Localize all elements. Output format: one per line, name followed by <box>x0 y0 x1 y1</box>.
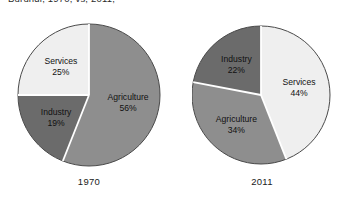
pie-chart-2011: Services44%Agriculture34%Industry22% 201… <box>192 22 332 187</box>
pie-chart-1970: Agriculture56%Industry19%Services25% 197… <box>14 22 164 187</box>
pie-label-percent: 25% <box>52 67 70 77</box>
pie-label-name: Services <box>44 56 77 66</box>
pie-label-percent: 44% <box>290 88 308 98</box>
pie-svg-2011: Services44%Agriculture34%Industry22% <box>192 22 332 172</box>
pie-label-name: Industry <box>221 54 252 64</box>
pie-label-percent: 56% <box>119 103 137 113</box>
pie-label-percent: 34% <box>228 125 246 135</box>
pie-label-name: Agriculture <box>216 114 257 124</box>
pie-label-name: Agriculture <box>108 92 149 102</box>
pie-year-label-1970: 1970 <box>14 176 164 187</box>
pie-chart-pair: Agriculture56%Industry19%Services25% 197… <box>0 0 348 200</box>
pie-label-name: Industry <box>41 107 72 117</box>
pie-year-label-2011: 2011 <box>192 176 332 187</box>
pie-label-percent: 19% <box>47 118 65 128</box>
pie-label-percent: 22% <box>228 65 246 75</box>
pie-label-name: Services <box>283 77 316 87</box>
pie-svg-1970: Agriculture56%Industry19%Services25% <box>14 22 164 172</box>
